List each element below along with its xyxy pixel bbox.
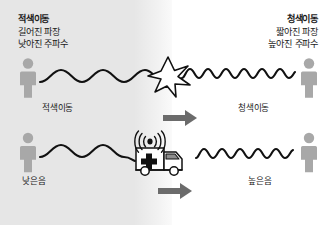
right-heading: 청색이동 [268,13,318,26]
label-high-pitch: 높은음 [248,174,271,186]
left-heading-line2: 길어진 파장 [18,26,68,39]
label-low-pitch: 낮은음 [22,174,45,186]
right-heading-line2: 짧아진 파장 [268,26,318,39]
label-blueshift-wave: 청색이동 [238,101,269,113]
left-heading: 적색이동 [18,13,68,26]
label-redshift-wave: 적색이동 [42,101,73,113]
right-heading-line3: 높아진 주파수 [268,38,318,51]
left-heading-line3: 낮아진 주파수 [18,38,68,51]
doppler-diagram: 적색이동 길어진 파장 낮아진 주파수 청색이동 짧아진 파장 높아진 주파수 … [0,0,332,225]
left-panel-heading-block: 적색이동 길어진 파장 낮아진 주파수 [18,13,68,51]
right-panel-heading-block: 청색이동 짧아진 파장 높아진 주파수 [268,13,318,51]
